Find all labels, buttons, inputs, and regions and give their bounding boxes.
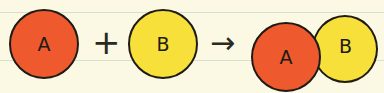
plus-sign: +	[92, 25, 121, 59]
reactant-b-label: B	[156, 33, 169, 55]
reactant-a-label: A	[38, 33, 51, 55]
product-a-label: A	[280, 46, 293, 68]
reactant-a-circle: A	[9, 9, 79, 79]
product-b-label: B	[339, 35, 352, 57]
product-b-circle: B	[312, 15, 378, 83]
product-a-circle: A	[251, 22, 321, 92]
reaction-arrow: →	[210, 28, 235, 58]
reactant-b-circle: B	[128, 9, 198, 79]
